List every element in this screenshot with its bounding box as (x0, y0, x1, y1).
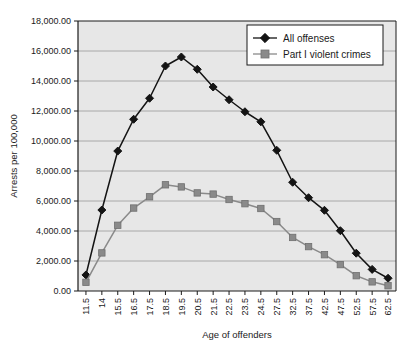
x-axis-tick-label: 57.5 (368, 298, 378, 316)
square-marker-icon (210, 191, 216, 197)
square-marker-icon (353, 273, 359, 279)
x-axis-tick-label: 15.5 (113, 298, 123, 316)
square-marker-icon (274, 218, 280, 224)
x-axis-title: Age of offenders (202, 329, 272, 340)
square-marker-icon (162, 182, 168, 188)
x-axis-tick-label: 62.5 (383, 298, 393, 316)
square-marker-icon (115, 222, 121, 228)
chart-legend[interactable]: All offenses Part I violent crimes (247, 25, 383, 65)
x-axis-tick-label: 23.5 (240, 298, 250, 316)
legend-label-all-offenses: All offenses (283, 33, 335, 44)
square-marker-icon (194, 190, 200, 196)
square-marker-icon (289, 234, 295, 240)
y-axis-tick-label: 8,000.00 (36, 166, 71, 176)
y-axis-tick-label: 12,000.00 (31, 106, 71, 116)
x-axis-tick-label: 22.5 (224, 298, 234, 316)
y-axis-tick-label: 0.00 (53, 286, 71, 296)
y-axis-tick-label: 2,000.00 (36, 256, 71, 266)
square-marker-icon (369, 279, 375, 285)
square-marker-icon (178, 184, 184, 190)
x-axis-tick-label: 21.5 (209, 298, 219, 316)
square-marker-icon (146, 194, 152, 200)
square-marker-icon (321, 252, 327, 258)
y-axis-tick-label: 16,000.00 (31, 46, 71, 56)
square-marker-icon (385, 283, 391, 289)
x-axis-tick-label: 52.5 (352, 298, 362, 316)
square-marker-icon (261, 50, 269, 58)
legend-entry-all-offenses[interactable]: All offenses (253, 33, 335, 44)
x-axis-tick-label: 14 (97, 298, 107, 308)
x-axis-tick-label: 24.5 (256, 298, 266, 316)
square-marker-icon (242, 201, 248, 207)
chart-container: 0.002,000.004,000.006,000.008,000.0010,0… (0, 0, 404, 347)
square-marker-icon (258, 205, 264, 211)
y-axis-tick-label: 10,000.00 (31, 136, 71, 146)
y-axis-title: Arrests per 100,000 (8, 114, 19, 197)
line-chart: 0.002,000.004,000.006,000.008,000.0010,0… (0, 0, 404, 347)
x-axis-tick-label: 16.5 (129, 298, 139, 316)
x-axis-tick-label: 37.5 (304, 298, 314, 316)
x-axis-tick-label: 19.5 (177, 298, 187, 316)
x-axis-tick-label: 11.5 (81, 298, 91, 315)
x-axis-tick-label: 20.5 (193, 298, 203, 316)
y-axis-tick-label: 18,000.00 (31, 16, 71, 26)
x-axis-tick-label: 17.5 (145, 298, 155, 316)
square-marker-icon (130, 205, 136, 211)
x-axis-tick-label: 47.5 (336, 298, 346, 316)
x-axis-tick-label: 18.5 (161, 298, 171, 316)
x-axis-tick-label: 42.5 (320, 298, 330, 316)
square-marker-icon (99, 250, 105, 256)
square-marker-icon (305, 243, 311, 249)
y-axis-tick-label: 6,000.00 (36, 196, 71, 206)
x-axis-tick-label: 32.5 (288, 298, 298, 316)
x-axis-tick-label: 27.5 (272, 298, 282, 316)
y-axis-tick-label: 4,000.00 (36, 226, 71, 236)
square-marker-icon (337, 261, 343, 267)
y-axis-tick-label: 14,000.00 (31, 76, 71, 86)
square-marker-icon (83, 279, 89, 285)
square-marker-icon (226, 196, 232, 202)
legend-label-part-i: Part I violent crimes (283, 49, 371, 60)
